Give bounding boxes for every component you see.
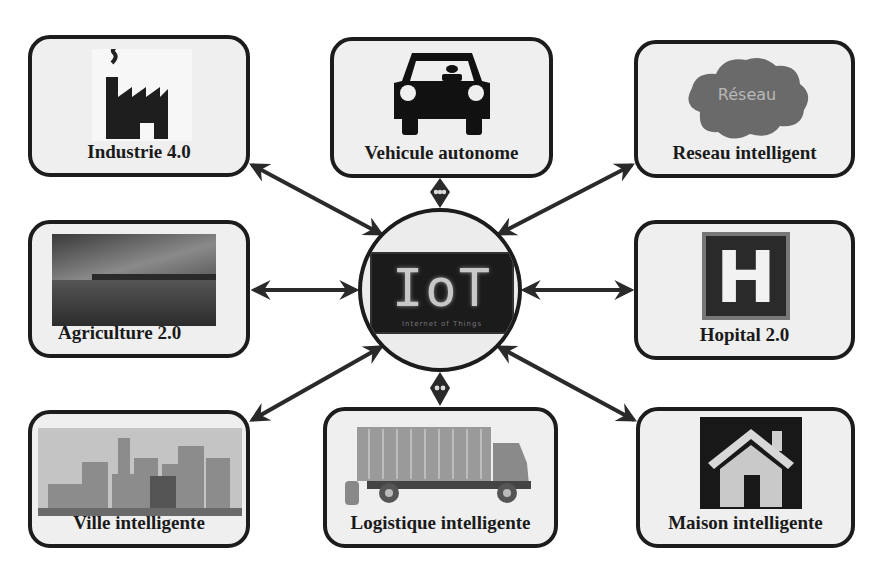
node-ville[interactable]: Ville intelligente bbox=[28, 410, 250, 548]
car-icon bbox=[390, 47, 494, 137]
node-reseau[interactable]: Réseau Reseau intelligent bbox=[634, 40, 855, 178]
connector-iot-vehicule bbox=[430, 178, 450, 208]
house-icon bbox=[700, 417, 802, 509]
node-label: Ville intelligente bbox=[32, 512, 246, 534]
hub-title: IoT bbox=[372, 258, 512, 318]
node-label: Reseau intelligent bbox=[638, 142, 851, 164]
node-label: Industrie 4.0 bbox=[32, 141, 246, 163]
iot-hub[interactable]: IoT Internet of Things bbox=[358, 208, 522, 372]
iot-screen-icon: IoT Internet of Things bbox=[370, 252, 514, 334]
hospital-letter: H bbox=[716, 235, 776, 319]
node-label: Vehicule autonome bbox=[334, 142, 549, 164]
hub-subtitle: Internet of Things bbox=[372, 320, 512, 328]
node-label: Maison intelligente bbox=[640, 512, 851, 534]
node-label: Hopital 2.0 bbox=[638, 324, 851, 346]
hospital-icon: H bbox=[702, 232, 790, 320]
node-hopital[interactable]: H Hopital 2.0 bbox=[634, 220, 855, 360]
node-label: Agriculture 2.0 bbox=[58, 322, 246, 344]
node-label: Logistique intelligente bbox=[327, 512, 554, 534]
node-agriculture[interactable]: Agriculture 2.0 bbox=[28, 220, 250, 358]
field-photo-icon bbox=[52, 234, 216, 326]
cloud-icon: Réseau bbox=[678, 52, 816, 144]
factory-icon bbox=[92, 49, 192, 141]
node-maison[interactable]: Maison intelligente bbox=[636, 407, 855, 548]
cloud-text: Réseau bbox=[718, 85, 776, 104]
node-logistique[interactable]: Logistique intelligente bbox=[323, 407, 558, 548]
connector-iot-logistique bbox=[430, 372, 450, 406]
truck-icon bbox=[343, 423, 543, 513]
node-vehicule[interactable]: Vehicule autonome bbox=[330, 37, 553, 178]
city-skyline-icon bbox=[38, 428, 242, 516]
node-industrie[interactable]: Industrie 4.0 bbox=[28, 35, 250, 177]
